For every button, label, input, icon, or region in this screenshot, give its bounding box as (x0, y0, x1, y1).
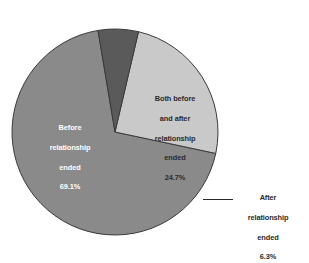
pie-slices (12, 29, 218, 235)
